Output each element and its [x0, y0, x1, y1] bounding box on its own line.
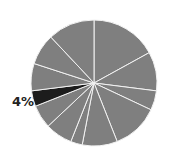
pie-chart [0, 0, 170, 157]
highlight-slice-label: 4% [12, 94, 34, 109]
